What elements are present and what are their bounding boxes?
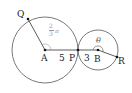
- point-b: [97, 49, 100, 52]
- label-theta: θ: [96, 37, 101, 45]
- label-p: P: [69, 54, 75, 63]
- label-r: R: [118, 57, 125, 66]
- label-angle-a-pi: π: [55, 28, 59, 34]
- point-p: [77, 49, 80, 52]
- point-q: [27, 18, 30, 21]
- label-ap-length: 5: [59, 54, 65, 63]
- label-pb-length: 3: [84, 54, 90, 63]
- segment-aq: [28, 19, 45, 50]
- label-angle-a-den: 3: [49, 31, 53, 37]
- point-a: [44, 49, 47, 52]
- label-angle-a-num: 2: [49, 23, 53, 29]
- label-a: A: [41, 54, 48, 63]
- label-b: B: [94, 55, 101, 64]
- label-q: Q: [17, 10, 24, 19]
